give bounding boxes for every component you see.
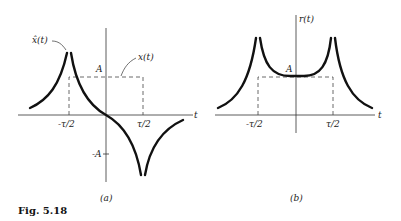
- pulse-rectangle: [258, 77, 333, 115]
- y-label-A: A: [95, 64, 103, 74]
- x-tick-neg: -τ/2: [246, 119, 263, 129]
- hilbert-curve-left: [30, 53, 67, 108]
- x-tick-pos: τ/2: [326, 119, 340, 129]
- x-axis-label: t: [378, 110, 382, 120]
- x-axis-label: t: [194, 110, 198, 120]
- hilbert-leader: [52, 41, 66, 50]
- panel-label: (a): [100, 193, 113, 203]
- panel-label: (b): [290, 193, 303, 203]
- signal-leader: [121, 58, 136, 76]
- figure-caption: Fig. 5.18: [18, 205, 67, 216]
- y-axis-label: r(t): [299, 14, 314, 24]
- figure-canvas: x̂(t) x(t) A -A -τ/2 τ/2 t (a) r(t) A -τ…: [0, 0, 401, 221]
- x-tick-pos: τ/2: [137, 119, 151, 129]
- signal-label: x(t): [138, 52, 154, 62]
- x-tick-neg: -τ/2: [58, 119, 75, 129]
- hilbert-label: x̂(t): [32, 35, 48, 45]
- envelope-curve-right: [335, 38, 372, 108]
- panel-b: r(t) A -τ/2 τ/2 t (b): [215, 14, 382, 203]
- panel-a: x̂(t) x(t) A -A -τ/2 τ/2 t (a): [18, 28, 198, 203]
- y-label-negA: -A: [92, 149, 102, 159]
- envelope-curve-left: [218, 38, 256, 108]
- y-label-A: A: [285, 64, 293, 74]
- envelope-curve-mid: [260, 38, 331, 76]
